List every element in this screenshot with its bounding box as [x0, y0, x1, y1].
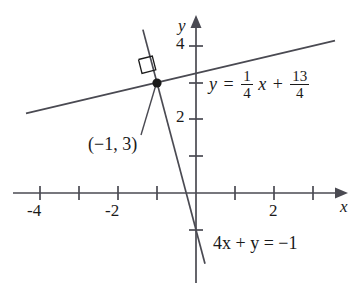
line1-x-symbol: x	[258, 74, 266, 94]
line1-slope-fraction: 1 4	[241, 68, 253, 101]
plotted-lines	[26, 30, 335, 264]
line1-equals-sign: =	[222, 74, 236, 94]
y-tick-label-4: 4	[176, 35, 185, 52]
graph-figure: y x 4 2 -4 -2 2 (−1, 3) y = 1 4 x + 13 4…	[0, 0, 361, 291]
line1-equation-label: y = 1 4 x + 13 4	[209, 69, 310, 102]
line1-y-symbol: y	[209, 74, 217, 94]
y-axis-arrowhead	[191, 15, 202, 28]
x-tick-label-2: 2	[269, 202, 278, 219]
intersection-point-marker	[152, 78, 161, 87]
line1-slope-numerator: 1	[241, 68, 253, 84]
x-tick-label--4: -4	[27, 202, 41, 219]
line1-intercept-denominator: 4	[290, 84, 309, 101]
line1-intercept-numerator: 13	[290, 68, 309, 84]
line1-slope-denominator: 4	[241, 84, 253, 101]
line1-intercept-fraction: 13 4	[290, 68, 309, 101]
line2-equation-label: 4x + y = −1	[213, 234, 297, 252]
right-angle-marker	[139, 56, 156, 73]
line2-equation-text: 4x + y = −1	[213, 233, 297, 253]
line1-plus-sign: +	[271, 74, 285, 94]
leader-line-to-point	[141, 83, 157, 135]
y-tick-label-2: 2	[176, 108, 185, 125]
x-axis-name-label: x	[340, 198, 348, 215]
x-tick-label--2: -2	[105, 202, 119, 219]
point-label: (−1, 3)	[88, 135, 137, 153]
y-axis-name-label: y	[178, 17, 186, 34]
